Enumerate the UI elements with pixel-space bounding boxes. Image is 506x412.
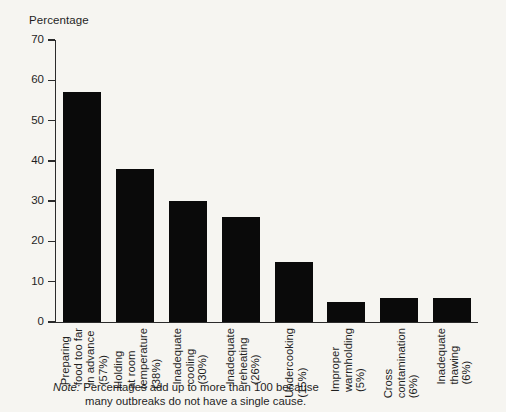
y-tick-label-0: 0 bbox=[2, 316, 44, 328]
y-tick-label-70: 70 bbox=[2, 34, 44, 46]
note-line-2: many outbreaks do not have a single caus… bbox=[53, 395, 473, 409]
category-label: Inadequatethawing(6%) bbox=[435, 328, 473, 385]
y-tick-10 bbox=[48, 281, 55, 282]
category-label-line: in advance bbox=[84, 328, 97, 385]
category-label-line: thawing bbox=[448, 328, 461, 385]
category-label: Inadequatecooling(30%) bbox=[171, 328, 209, 385]
y-tick-label-wrap-40: 40 bbox=[0, 155, 44, 167]
category-label-line: (6%) bbox=[460, 328, 473, 385]
y-tick-0 bbox=[48, 321, 55, 322]
bar bbox=[380, 298, 418, 322]
category-label: Preparingfood too farin advance(57%) bbox=[59, 328, 109, 385]
category-label-line: cooling bbox=[183, 328, 196, 385]
bar bbox=[169, 201, 207, 322]
category-label-line: (57%) bbox=[97, 328, 110, 385]
bar bbox=[222, 217, 260, 322]
y-tick-label-wrap-50: 50 bbox=[0, 115, 44, 127]
y-tick-label-wrap-20: 20 bbox=[0, 235, 44, 247]
y-tick-30 bbox=[48, 200, 55, 201]
category-label-line: (30%) bbox=[196, 328, 209, 385]
category-label-line: (26%) bbox=[249, 328, 262, 385]
category-label-line: Preparing bbox=[59, 328, 72, 385]
y-tick-label-50: 50 bbox=[2, 115, 44, 127]
y-tick-60 bbox=[48, 80, 55, 81]
note-line-1: Percentages add up to more than 100 beca… bbox=[83, 381, 319, 393]
y-tick-label-10: 10 bbox=[2, 276, 44, 288]
x-axis-line bbox=[55, 322, 478, 323]
category-label-line: reheating bbox=[236, 328, 249, 385]
y-tick-70 bbox=[48, 39, 55, 40]
category-label-line: temperature bbox=[137, 328, 150, 389]
y-tick-20 bbox=[48, 241, 55, 242]
y-tick-label-60: 60 bbox=[2, 74, 44, 86]
y-axis-line bbox=[55, 40, 56, 323]
y-tick-label-wrap-70: 70 bbox=[0, 34, 44, 46]
bar bbox=[327, 302, 365, 322]
category-label-line: at room bbox=[124, 328, 137, 389]
bar bbox=[63, 92, 101, 322]
y-tick-label-wrap-30: 30 bbox=[0, 195, 44, 207]
bar bbox=[433, 298, 471, 322]
bar bbox=[116, 169, 154, 322]
bar bbox=[275, 262, 313, 322]
y-axis-title: Percentage bbox=[29, 14, 89, 26]
note-label: Note: bbox=[53, 381, 80, 393]
y-tick-40 bbox=[48, 160, 55, 161]
y-tick-50 bbox=[48, 120, 55, 121]
category-label: Holdingat roomtemperature(38%) bbox=[112, 328, 162, 389]
category-label-line: Inadequate bbox=[171, 328, 184, 385]
category-label-line: (38%) bbox=[149, 328, 162, 389]
category-label: Inadequatereheating(26%) bbox=[224, 328, 262, 385]
category-label-line: Inadequate bbox=[435, 328, 448, 385]
y-tick-label-40: 40 bbox=[2, 155, 44, 167]
y-tick-label-wrap-60: 60 bbox=[0, 74, 44, 86]
chart-note: Note: Percentages add up to more than 10… bbox=[53, 381, 473, 408]
y-tick-label-30: 30 bbox=[2, 195, 44, 207]
y-tick-label-wrap-10: 10 bbox=[0, 276, 44, 288]
category-label-line: Inadequate bbox=[224, 328, 237, 385]
y-tick-label-20: 20 bbox=[2, 235, 44, 247]
y-tick-label-wrap-0: 0 bbox=[0, 316, 44, 328]
category-label-line: Holding bbox=[112, 328, 125, 389]
category-label-line: food too far bbox=[71, 328, 84, 385]
bar-chart: Percentage 010203040506070 Preparingfood… bbox=[0, 0, 506, 412]
